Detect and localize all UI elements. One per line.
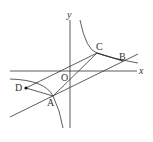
point-D-label: D (15, 82, 22, 93)
y-axis-label: y (66, 9, 72, 20)
point-B-label: B (119, 51, 126, 62)
coordinate-diagram: y x O C B D A (0, 0, 153, 142)
x-axis-label: x (138, 65, 144, 76)
origin-label: O (61, 72, 68, 83)
segment-D-A (26, 88, 53, 96)
point-C-label: C (96, 41, 103, 52)
point-A-label: A (47, 97, 55, 108)
line-through-A-B (10, 54, 138, 117)
segment-A-C (53, 53, 97, 96)
point-D-dot (24, 86, 27, 89)
